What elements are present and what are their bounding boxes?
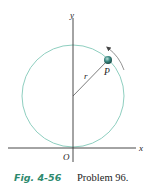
radius-label: r <box>84 71 88 81</box>
origin-label: O <box>63 152 70 162</box>
radius-line <box>73 60 108 96</box>
point-label: P <box>103 67 110 77</box>
caption-text: Problem 96. <box>77 170 128 186</box>
figure-caption: Fig. 4-56 Problem 96. <box>0 170 149 186</box>
circular-motion-diagram: y x O r P <box>0 0 149 170</box>
x-axis-label: x <box>138 143 143 153</box>
particle-p <box>104 56 112 64</box>
figure-number: Fig. 4-56 <box>14 170 61 186</box>
y-axis-label: y <box>69 10 74 20</box>
